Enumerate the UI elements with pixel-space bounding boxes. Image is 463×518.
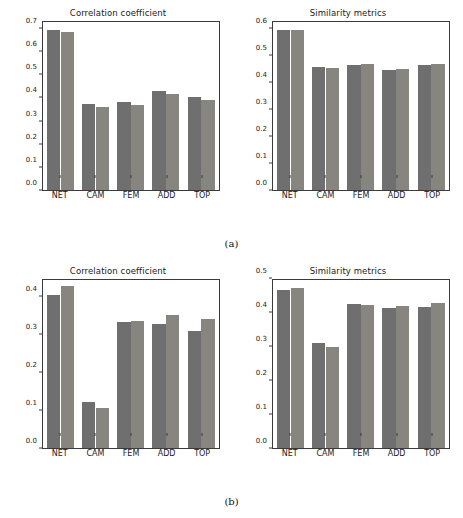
bar bbox=[382, 308, 395, 448]
y-axis: 0.00.10.20.30.40.5 bbox=[242, 279, 272, 449]
bar bbox=[166, 94, 179, 190]
x-tick-mark bbox=[325, 175, 326, 178]
figure-root: Correlation coefficient 0.00.10.20.30.40… bbox=[0, 0, 463, 518]
x-tick-mark bbox=[59, 175, 60, 178]
y-tick-label: 0.1 bbox=[256, 152, 267, 160]
bar bbox=[96, 408, 109, 448]
y-tick-label: 0.2 bbox=[26, 133, 37, 141]
chart-a-correlation: Correlation coefficient 0.00.10.20.30.40… bbox=[12, 8, 224, 213]
y-tick-label: 0.6 bbox=[256, 17, 267, 25]
x-tick-mark bbox=[59, 433, 60, 436]
y-tick-label: 0.7 bbox=[26, 17, 37, 25]
y-tick-label: 0.4 bbox=[256, 301, 267, 309]
x-tick-mark bbox=[131, 175, 132, 178]
bar bbox=[291, 30, 304, 190]
x-tick-mark bbox=[289, 175, 290, 178]
x-tick-label-top: TOP bbox=[424, 191, 440, 200]
y-tick-label: 0.3 bbox=[256, 98, 267, 106]
x-tick-label-top: TOP bbox=[194, 449, 210, 458]
y-tick-label: 0.4 bbox=[256, 71, 267, 79]
bar bbox=[291, 288, 304, 448]
y-tick-label: 0.0 bbox=[26, 179, 37, 187]
bar bbox=[326, 68, 339, 190]
bar bbox=[277, 290, 290, 448]
y-tick-label: 0.4 bbox=[26, 285, 37, 293]
chart-a-similarity: Similarity metrics 0.00.10.20.30.40.50.6… bbox=[242, 8, 454, 213]
y-tick-label: 0.2 bbox=[26, 361, 37, 369]
bar bbox=[152, 91, 165, 190]
y-tick-label: 0.5 bbox=[256, 44, 267, 52]
bar bbox=[131, 321, 144, 448]
plot-area bbox=[43, 22, 219, 190]
y-tick-label: 0.5 bbox=[256, 267, 267, 275]
x-axis: NETCAMFEMADDTOP bbox=[42, 449, 220, 465]
x-tick-label-fem: FEM bbox=[353, 191, 370, 200]
subfigure-caption-a: (a) bbox=[0, 238, 463, 249]
chart-title: Correlation coefficient bbox=[12, 266, 224, 276]
chart-title: Similarity metrics bbox=[242, 266, 454, 276]
bar bbox=[47, 30, 60, 190]
plot-area bbox=[43, 280, 219, 448]
x-tick-mark bbox=[202, 433, 203, 436]
plot-frame bbox=[42, 21, 220, 191]
bar bbox=[347, 65, 360, 190]
bar bbox=[326, 347, 339, 448]
bar bbox=[82, 402, 95, 449]
y-tick-label: 0.0 bbox=[26, 437, 37, 445]
y-tick-label: 0.1 bbox=[26, 399, 37, 407]
y-axis: 0.00.10.20.30.4 bbox=[12, 279, 42, 449]
x-tick-mark bbox=[396, 175, 397, 178]
bar bbox=[361, 64, 374, 190]
bar bbox=[117, 322, 130, 448]
bar bbox=[431, 303, 444, 448]
x-tick-mark bbox=[166, 433, 167, 436]
x-tick-mark bbox=[361, 433, 362, 436]
bar bbox=[201, 319, 214, 448]
plot-frame bbox=[42, 279, 220, 449]
bar bbox=[188, 97, 201, 190]
x-tick-label-top: TOP bbox=[194, 191, 210, 200]
y-tick-label: 0.2 bbox=[256, 369, 267, 377]
bar bbox=[431, 64, 444, 190]
x-tick-label-fem: FEM bbox=[123, 191, 140, 200]
bar bbox=[188, 331, 201, 448]
bar bbox=[396, 306, 409, 448]
chart-b-similarity: Similarity metrics 0.00.10.20.30.40.5 NE… bbox=[242, 266, 454, 471]
chart-title: Similarity metrics bbox=[242, 8, 454, 18]
y-tick-label: 0.1 bbox=[256, 403, 267, 411]
subfigure-caption-b: (b) bbox=[0, 496, 463, 507]
chart-title: Correlation coefficient bbox=[12, 8, 224, 18]
x-axis: NETCAMFEMADDTOP bbox=[272, 191, 450, 207]
x-tick-mark bbox=[396, 433, 397, 436]
x-tick-label-add: ADD bbox=[388, 449, 406, 458]
x-tick-label-add: ADD bbox=[388, 191, 406, 200]
bar bbox=[82, 104, 95, 190]
bar bbox=[396, 69, 409, 190]
bar bbox=[47, 295, 60, 448]
x-tick-label-net: NET bbox=[282, 449, 298, 458]
plot-area bbox=[273, 22, 449, 190]
y-tick-label: 0.1 bbox=[26, 156, 37, 164]
y-tick-label: 0.0 bbox=[256, 437, 267, 445]
x-tick-mark bbox=[131, 433, 132, 436]
x-tick-label-cam: CAM bbox=[316, 449, 334, 458]
x-tick-mark bbox=[325, 433, 326, 436]
bar bbox=[361, 305, 374, 448]
bar bbox=[61, 32, 74, 190]
x-axis: NETCAMFEMADDTOP bbox=[272, 449, 450, 465]
bar bbox=[96, 107, 109, 190]
subfigure-a: Correlation coefficient 0.00.10.20.30.40… bbox=[0, 0, 463, 258]
y-axis: 0.00.10.20.30.40.50.60.7 bbox=[12, 21, 42, 191]
y-tick-label: 0.6 bbox=[26, 40, 37, 48]
x-tick-mark bbox=[202, 175, 203, 178]
bar bbox=[418, 65, 431, 190]
bar bbox=[166, 315, 179, 449]
x-tick-label-net: NET bbox=[52, 449, 68, 458]
x-tick-mark bbox=[95, 175, 96, 178]
bar bbox=[312, 67, 325, 190]
x-tick-label-cam: CAM bbox=[316, 191, 334, 200]
bar bbox=[117, 102, 130, 190]
x-tick-label-fem: FEM bbox=[123, 449, 140, 458]
bar bbox=[131, 105, 144, 190]
plot-area bbox=[273, 280, 449, 448]
